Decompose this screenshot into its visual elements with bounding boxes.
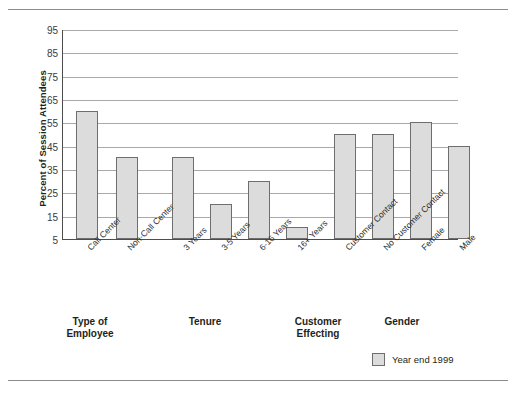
group-label-line2: Effecting — [268, 328, 368, 340]
bottom-rule — [8, 380, 508, 381]
group-label-gender: Gender — [352, 316, 452, 328]
y-tick-label: 25 — [32, 189, 58, 199]
group-label-line1: Tenure — [155, 316, 255, 328]
y-tick-label: 55 — [32, 119, 58, 129]
group-label-line1: Type of — [40, 316, 140, 328]
bar-non-call-center — [116, 157, 138, 239]
legend-label-year-end-1999: Year end 1999 — [392, 354, 453, 365]
gridline — [62, 30, 458, 31]
chart-figure: Percent of Session Attendees 95 85 75 65… — [0, 0, 516, 397]
y-tick-label: 65 — [32, 96, 58, 106]
group-label-type-of-employee: Type of Employee — [40, 316, 140, 339]
gridline — [62, 123, 458, 124]
bar-3-years — [172, 157, 194, 239]
y-tick-label: 95 — [32, 26, 58, 36]
group-label-line1: Gender — [352, 316, 452, 328]
group-label-tenure: Tenure — [155, 316, 255, 328]
y-tick-label: 75 — [32, 73, 58, 83]
gridline — [62, 77, 458, 78]
y-tick-label: 5 — [32, 236, 58, 246]
bar-6-16-years — [248, 181, 270, 239]
y-tick-label: 45 — [32, 143, 58, 153]
chart-legend: Year end 1999 — [372, 353, 453, 366]
legend-swatch-year-end-1999 — [372, 353, 385, 366]
gridline — [62, 100, 458, 101]
bar-male — [448, 146, 470, 239]
y-axis-line — [62, 30, 63, 240]
bar-customer-contact — [334, 134, 356, 239]
plot-area — [62, 30, 458, 240]
bar-3-5-years — [210, 204, 232, 239]
bar-call-center — [76, 111, 98, 239]
group-label-line2: Employee — [40, 328, 140, 340]
y-tick-label: 35 — [32, 166, 58, 176]
top-rule — [8, 9, 508, 10]
gridline — [62, 53, 458, 54]
gridline — [62, 147, 458, 148]
y-axis-tick-labels: 95 85 75 65 55 45 35 25 15 5 — [28, 30, 58, 240]
y-tick-label: 15 — [32, 213, 58, 223]
y-tick-label: 85 — [32, 49, 58, 59]
